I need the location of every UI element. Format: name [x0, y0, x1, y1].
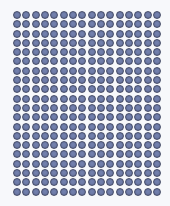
- grid-dot: [60, 95, 68, 103]
- grid-dot: [106, 20, 114, 28]
- grid-dot: [78, 39, 86, 47]
- grid-dot: [41, 113, 49, 121]
- grid-dot: [50, 188, 58, 196]
- grid-dot: [50, 169, 58, 177]
- grid-dot: [78, 150, 86, 158]
- grid-dot: [134, 150, 142, 158]
- grid-dot: [144, 141, 152, 149]
- grid-dot: [116, 169, 124, 177]
- grid-dot: [116, 30, 124, 38]
- grid-dot: [144, 188, 152, 196]
- grid-dot: [144, 95, 152, 103]
- grid-dot: [134, 67, 142, 75]
- grid-dot: [116, 48, 124, 56]
- grid-dot: [78, 11, 86, 19]
- grid-dot: [32, 123, 40, 131]
- grid-dot: [50, 11, 58, 19]
- grid-dot: [144, 20, 152, 28]
- grid-dot: [153, 123, 161, 131]
- grid-dot: [50, 95, 58, 103]
- grid-dot: [153, 188, 161, 196]
- grid-dot: [106, 95, 114, 103]
- grid-dot: [60, 67, 68, 75]
- grid-dot: [78, 132, 86, 140]
- grid-dot: [69, 48, 77, 56]
- grid-dot: [97, 178, 105, 186]
- grid-dot: [134, 85, 142, 93]
- grid-dot: [153, 11, 161, 19]
- grid-dot: [116, 85, 124, 93]
- grid-dot: [41, 123, 49, 131]
- grid-dot: [13, 113, 21, 121]
- grid-dot: [125, 113, 133, 121]
- grid-dot: [22, 39, 30, 47]
- grid-dot: [69, 132, 77, 140]
- grid-dot: [116, 132, 124, 140]
- grid-dot: [41, 48, 49, 56]
- grid-dot: [78, 178, 86, 186]
- grid-dot: [116, 178, 124, 186]
- grid-dot: [50, 30, 58, 38]
- grid-dot: [32, 169, 40, 177]
- grid-dot: [32, 57, 40, 65]
- grid-dot: [153, 141, 161, 149]
- grid-dot: [69, 178, 77, 186]
- grid-dot: [41, 188, 49, 196]
- grid-dot: [88, 57, 96, 65]
- grid-dot: [60, 141, 68, 149]
- grid-dot: [97, 160, 105, 168]
- grid-dot: [41, 132, 49, 140]
- grid-dot: [32, 30, 40, 38]
- grid-dot: [60, 169, 68, 177]
- grid-dot: [134, 95, 142, 103]
- grid-dot: [22, 160, 30, 168]
- grid-dot: [144, 57, 152, 65]
- grid-dot: [125, 160, 133, 168]
- grid-dot: [41, 11, 49, 19]
- grid-dot: [97, 169, 105, 177]
- grid-dot: [116, 141, 124, 149]
- grid-dot: [78, 30, 86, 38]
- grid-dot: [125, 57, 133, 65]
- grid-dot: [153, 20, 161, 28]
- grid-dot: [32, 85, 40, 93]
- grid-dot: [32, 132, 40, 140]
- grid-dot: [41, 39, 49, 47]
- grid-dot: [78, 123, 86, 131]
- grid-dot: [22, 95, 30, 103]
- grid-dot: [13, 30, 21, 38]
- grid-dot: [144, 132, 152, 140]
- grid-dot: [60, 85, 68, 93]
- grid-dot: [106, 123, 114, 131]
- grid-dot: [153, 57, 161, 65]
- grid-dot: [60, 30, 68, 38]
- grid-dot: [106, 188, 114, 196]
- grid-dot: [153, 113, 161, 121]
- grid-dot: [22, 150, 30, 158]
- grid-dot: [32, 11, 40, 19]
- grid-dot: [106, 85, 114, 93]
- grid-dot: [97, 104, 105, 112]
- grid-dot: [60, 104, 68, 112]
- dot-grid: [13, 11, 163, 197]
- grid-dot: [60, 76, 68, 84]
- grid-dot: [134, 30, 142, 38]
- grid-dot: [22, 20, 30, 28]
- grid-dot: [13, 169, 21, 177]
- grid-dot: [153, 132, 161, 140]
- grid-dot: [125, 132, 133, 140]
- grid-dot: [106, 57, 114, 65]
- grid-dot: [60, 57, 68, 65]
- grid-dot: [22, 48, 30, 56]
- grid-dot: [13, 11, 21, 19]
- grid-dot: [60, 188, 68, 196]
- grid-dot: [32, 76, 40, 84]
- grid-dot: [13, 20, 21, 28]
- grid-dot: [88, 11, 96, 19]
- grid-dot: [69, 20, 77, 28]
- grid-dot: [134, 123, 142, 131]
- grid-dot: [134, 169, 142, 177]
- grid-dot: [134, 76, 142, 84]
- grid-dot: [88, 67, 96, 75]
- grid-dot: [116, 20, 124, 28]
